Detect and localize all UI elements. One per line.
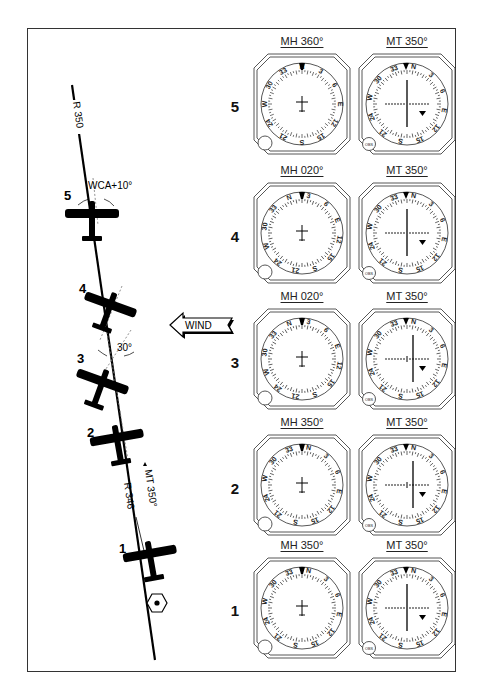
row-4-heading-indicator: N36E1215S2124W3033 (252, 181, 352, 285)
row-2-vor-indicator: N36E1215S2124W3033OBS (357, 433, 457, 537)
aircraft-3-icon (68, 361, 132, 417)
aircraft-2-icon (88, 421, 148, 470)
row-2-course-title: MT 350° (357, 416, 457, 428)
row-3-heading-indicator: N36E1215S2124W3033 (252, 307, 352, 411)
aircraft-5-number: 5 (64, 188, 71, 203)
aircraft-5-icon (65, 201, 119, 241)
aircraft-3-number: 3 (77, 351, 84, 366)
svg-text:OBS: OBS (365, 647, 373, 651)
row-5-heading-title: MH 360° (252, 35, 352, 47)
svg-text:12: 12 (335, 235, 343, 244)
svg-text:E: E (337, 102, 344, 107)
aircraft-2-number: 2 (87, 425, 94, 440)
row-1-heading-title: MH 350° (252, 539, 352, 551)
row-5-course-title: MT 350° (357, 35, 457, 47)
row-3-heading-title: MH 020° (252, 290, 352, 302)
svg-text:30: 30 (260, 222, 268, 231)
svg-text:12: 12 (335, 361, 343, 370)
svg-text:OBS: OBS (365, 143, 373, 147)
row-3-number: 3 (228, 354, 242, 371)
svg-text:S: S (299, 139, 304, 146)
row-4-heading-title: MH 020° (252, 164, 352, 176)
row-2-heading-indicator: N36E1215S2124W3033 (252, 433, 352, 537)
svg-text:W: W (261, 100, 268, 107)
row-3-course-title: MT 350° (357, 290, 457, 302)
svg-text:OBS: OBS (365, 398, 373, 402)
wind-label: WIND (185, 320, 212, 331)
svg-text:21: 21 (291, 392, 300, 400)
row-5-heading-indicator: N36E1215S2124W3033 (252, 52, 352, 156)
intercept-angle-label: 30° (117, 342, 132, 353)
aircraft-1-number: 1 (119, 541, 126, 556)
row-4-number: 4 (228, 228, 242, 245)
row-4-vor-indicator: N36E1215S2124W3033OBS (357, 181, 457, 285)
row-1-heading-indicator: N36E1215S2124W3033 (252, 556, 352, 660)
svg-text:21: 21 (291, 266, 300, 274)
aircraft-4-number: 4 (79, 281, 87, 296)
aircraft-1-icon (121, 537, 181, 586)
row-4-course-title: MT 350° (357, 164, 457, 176)
svg-text:OBS: OBS (365, 272, 373, 276)
row-1-vor-indicator: N36E1215S2124W3033OBS (357, 556, 457, 660)
course-label: MT 350° (143, 469, 159, 508)
vor-station-icon (147, 594, 167, 612)
row-5-vor-indicator: N36E1215S2124W3033OBS (357, 52, 457, 156)
radial-346-label: R 346 (122, 482, 137, 510)
row-3-vor-indicator: N36E1215S2124W3033OBS (357, 307, 457, 411)
svg-text:OBS: OBS (365, 524, 373, 528)
row-2-heading-title: MH 350° (252, 416, 352, 428)
row-2-number: 2 (228, 480, 242, 497)
row-1-number: 1 (228, 602, 242, 619)
row-5-number: 5 (228, 98, 242, 115)
svg-text:30: 30 (260, 348, 268, 357)
wca-label: WCA+10° (88, 180, 132, 191)
row-1-course-title: MT 350° (357, 539, 457, 551)
